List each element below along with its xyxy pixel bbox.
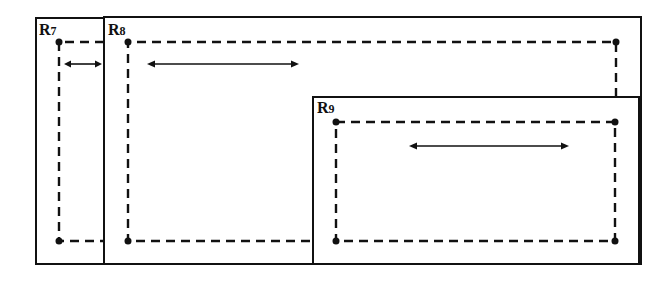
- region-r8-label: R8: [108, 21, 126, 38]
- corner-dot: [333, 238, 340, 245]
- region-r9-label: R9: [317, 99, 335, 116]
- double-arrow-icon: [147, 61, 299, 68]
- corner-dot: [613, 39, 620, 46]
- region-r9: R9: [313, 97, 639, 264]
- corner-dot: [56, 39, 63, 46]
- corner-dot: [612, 119, 619, 126]
- corner-dot: [612, 238, 619, 245]
- region-r7-dashed-outline: [59, 42, 104, 241]
- corner-dot: [125, 238, 132, 245]
- region-r7-label: R7: [39, 21, 57, 38]
- double-arrow-icon: [64, 61, 102, 68]
- region-diagram: R7 R8 R9: [0, 0, 672, 284]
- corner-dot: [125, 39, 132, 46]
- region-r7: R7: [36, 18, 104, 264]
- corner-dot: [56, 238, 63, 245]
- corner-dot: [333, 119, 340, 126]
- region-r7-box: [36, 18, 104, 264]
